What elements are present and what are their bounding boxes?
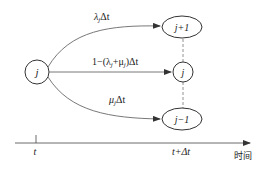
birth-death-transition-diagram: j λjΔt 1−(λj+μj)Δt μjΔt j+1 j j−1 t t+Δt… [0, 0, 265, 169]
transition-down-label: μjΔt [108, 94, 125, 107]
axis-end-label: t+Δt [172, 146, 190, 157]
target-state-up-node: j+1 [162, 16, 202, 38]
target-state-down-node: j−1 [162, 108, 202, 130]
transition-up-label: λjΔt [93, 11, 110, 24]
transition-down-arrow [48, 77, 160, 119]
axis-start-label: t [34, 146, 37, 157]
transition-same-label: 1−(λj+μj)Δt [92, 56, 139, 69]
source-state-node: j [25, 60, 49, 84]
target-state-down-label: j−1 [173, 114, 190, 125]
target-state-same-node: j [173, 62, 193, 82]
target-state-up-label: j+1 [173, 22, 190, 33]
axis-title: 时间 [234, 150, 252, 161]
